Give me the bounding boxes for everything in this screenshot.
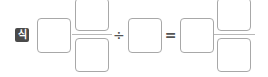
- result-whole-input[interactable]: [180, 18, 214, 53]
- divide-sign: ÷: [113, 28, 124, 42]
- result-numerator-input[interactable]: [217, 0, 251, 31]
- denominator-input-1[interactable]: [75, 38, 109, 72]
- expression-label-badge: 식: [15, 28, 29, 42]
- divisor-input[interactable]: [128, 18, 162, 53]
- equals-sign: =: [164, 28, 177, 42]
- whole-number-input-1[interactable]: [37, 18, 71, 53]
- fraction-bar-1: [72, 34, 112, 35]
- fraction-bar-result: [214, 34, 255, 35]
- numerator-input-1[interactable]: [75, 0, 109, 31]
- result-denominator-input[interactable]: [217, 38, 251, 72]
